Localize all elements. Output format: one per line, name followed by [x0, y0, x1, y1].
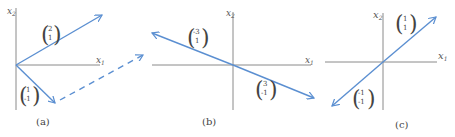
vector-figure: x2 x1 ( 2 1 ) ( 1 -1 ) (a) x2 x1 ( -3 1 — [0, 0, 455, 137]
caption-c: (c) — [395, 119, 409, 130]
svg-text:-3: -3 — [193, 28, 200, 36]
matrix-label-neg1-neg1: ( -1 -1 ) — [352, 86, 376, 111]
matrix-label-2-1: ( 2 1 ) — [41, 22, 62, 47]
panel-c: x2 x1 ( 1 1 ) ( -1 -1 ) (c) — [325, 9, 447, 130]
svg-text:): ) — [269, 77, 278, 102]
caption-b: (b) — [202, 116, 216, 127]
svg-text:): ) — [409, 11, 418, 36]
x-axis-label: x1 — [96, 55, 105, 66]
matrix-label-3-neg1: ( 3 -1 ) — [255, 77, 278, 102]
svg-text:): ) — [53, 22, 62, 47]
svg-text:): ) — [367, 86, 376, 111]
svg-text:-1: -1 — [261, 89, 268, 97]
matrix-label-1-1: ( 1 1 ) — [395, 11, 418, 36]
y-axis-label: x2 — [373, 9, 383, 21]
x-axis-label: x1 — [438, 50, 447, 62]
matrix-label-1-neg1: ( 1 -1 ) — [19, 83, 41, 108]
svg-text:-1: -1 — [358, 89, 365, 97]
caption-a: (a) — [36, 116, 50, 127]
svg-text:3: 3 — [263, 80, 267, 88]
svg-text:1: 1 — [403, 15, 407, 23]
svg-text:1: 1 — [48, 34, 52, 42]
x-axis-label: x1 — [305, 55, 314, 66]
y-axis-label: x2 — [7, 6, 16, 17]
svg-text:1: 1 — [26, 86, 30, 94]
panel-b: x2 x1 ( -3 1 ) ( 3 -1 ) (b) — [152, 8, 314, 127]
matrix-label-neg3-1: ( -3 1 ) — [187, 25, 210, 50]
y-axis-label: x2 — [226, 8, 235, 19]
svg-text:2: 2 — [48, 25, 52, 33]
svg-text:): ) — [201, 25, 210, 50]
svg-text:-1: -1 — [24, 95, 31, 103]
svg-text:1: 1 — [403, 24, 407, 32]
svg-text:-1: -1 — [358, 98, 365, 106]
panel-a: x2 x1 ( 2 1 ) ( 1 -1 ) (a) — [7, 6, 143, 127]
svg-text:1: 1 — [195, 37, 199, 45]
svg-text:): ) — [32, 83, 41, 108]
